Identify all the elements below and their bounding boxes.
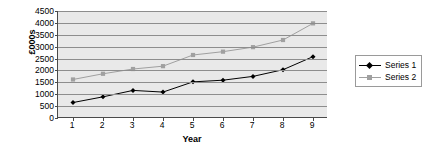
y-axis-tick-mark [55,70,58,71]
x-axis-tick-label: 8 [272,121,292,130]
diamond-marker-icon [359,60,381,70]
series-lines [58,11,328,118]
data-point-marker [281,38,285,42]
x-axis-tick-label: 3 [122,121,142,130]
line-chart: £000s 4500400035003000250020001500100050… [0,0,433,154]
y-axis-tick-mark [55,118,58,119]
gridline [58,94,327,95]
y-axis-tick-label: 0 [24,114,54,123]
x-axis-title: Year [57,134,327,144]
gridline [58,23,327,24]
gridline [58,70,327,71]
legend-label: Series 2 [381,72,416,82]
data-point-marker [101,72,105,76]
x-axis-tick-label: 6 [212,121,232,130]
legend-item[interactable]: Series 2 [359,71,416,83]
data-point-marker [71,77,75,81]
y-axis-tick-label: 3000 [24,43,54,52]
gridline [58,47,327,48]
plot-area [57,11,327,118]
data-point-marker [221,50,225,54]
square-marker-icon [359,72,381,82]
y-axis-tick-label: 2500 [24,55,54,64]
y-axis-tick-labels: 450040003500300025002000150010005000 [24,4,54,126]
gridline [58,59,327,60]
y-axis-tick-mark [55,11,58,12]
y-axis-tick-mark [55,47,58,48]
y-axis-tick-mark [55,35,58,36]
gridline [58,11,327,12]
x-axis-tick-label: 9 [302,121,322,130]
y-axis-tick-label: 500 [24,102,54,111]
y-axis-tick-mark [55,23,58,24]
legend-item[interactable]: Series 1 [359,59,416,71]
gridline [58,106,327,107]
x-axis-tick-label: 7 [242,121,262,130]
data-point-marker [161,64,165,68]
y-axis-tick-label: 1000 [24,90,54,99]
data-point-marker [71,100,76,105]
x-axis-tick-label: 1 [62,121,82,130]
y-axis-tick-label: 4000 [24,19,54,28]
legend-label: Series 1 [381,60,416,70]
y-axis-tick-mark [55,59,58,60]
x-axis-tick-labels: 123456789 [57,121,327,133]
gridline [58,82,327,83]
y-axis-tick-label: 1500 [24,78,54,87]
gridline [58,35,327,36]
y-axis-tick-mark [55,82,58,83]
data-point-marker [131,88,136,93]
data-point-marker [251,74,256,79]
y-axis-tick-label: 2000 [24,66,54,75]
legend: Series 1Series 2 [355,55,422,87]
x-axis-tick-label: 4 [152,121,172,130]
y-axis-tick-label: 4500 [24,7,54,16]
data-point-marker [191,53,195,57]
y-axis-tick-mark [55,94,58,95]
y-axis-tick-label: 3500 [24,31,54,40]
x-axis-tick-label: 2 [92,121,112,130]
y-axis-tick-mark [55,106,58,107]
x-axis-tick-label: 5 [182,121,202,130]
